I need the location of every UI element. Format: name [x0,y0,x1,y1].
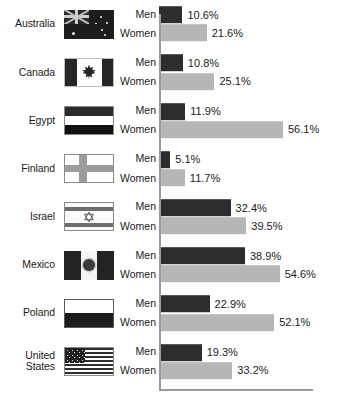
chart-row: CanadaMenWomen10.8%25.1% [0,48,342,96]
series-label-men: Men [120,246,156,266]
bar-line: 10.6% [159,7,342,24]
bar-men[interactable] [159,103,185,120]
israel-flag-icon [64,202,114,231]
flag-cell [58,10,120,39]
horizontal-baseline [159,389,313,391]
bar-value-label: 11.9% [190,105,220,117]
series-labels: MenWomen [120,101,159,140]
country-label-line: Israel [0,211,55,223]
plot-area: 11.9%56.1% [159,96,342,144]
canada-flag-icon [64,58,114,87]
series-label-women: Women [120,120,156,140]
series-label-women: Women [120,313,156,333]
country-label: Egypt [0,115,58,127]
series-label-women: Women [120,361,156,381]
series-label-women: Women [120,217,156,237]
bar-line: 10.8% [159,55,342,72]
series-label-men: Men [120,342,156,362]
bar-women[interactable] [159,217,246,234]
chart-row: FinlandMenWomen5.1%11.7% [0,145,342,193]
bar-value-label: 33.2% [237,365,268,377]
bar-women[interactable] [159,169,185,186]
series-labels: MenWomen [120,53,159,92]
bar-value-label: 11.7% [190,172,220,184]
bar-value-label: 39.5% [251,220,282,232]
bar-women[interactable] [159,121,283,138]
bar-line: 11.7% [159,169,342,186]
country-label: Israel [0,211,58,223]
bar-men[interactable] [159,7,182,24]
country-label-line: Australia [0,18,55,30]
series-labels: MenWomen [120,197,159,236]
series-labels: MenWomen [120,294,159,333]
series-label-women: Women [120,72,156,92]
bar-women[interactable] [159,266,280,283]
bar-men[interactable] [159,247,245,264]
plot-area: 38.9%54.6% [159,241,342,289]
plot-area: 19.3%33.2% [159,337,342,385]
country-label-line: Mexico [0,259,55,271]
bar-value-label: 32.4% [236,202,267,214]
bar-value-label: 5.1% [175,154,200,166]
bar-women[interactable] [159,73,214,90]
bar-line: 39.5% [159,217,342,234]
flag-cell [58,202,120,231]
bar-line: 38.9% [159,247,342,264]
country-label: Mexico [0,259,58,271]
series-labels: MenWomen [120,342,159,381]
chart-row: MexicoMenWomen38.9%54.6% [0,241,342,289]
series-label-women: Women [120,24,156,44]
flag-cell [58,106,120,135]
finland-flag-icon [64,154,114,183]
series-label-men: Men [120,197,156,217]
series-label-women: Women [120,265,156,285]
bar-line: 52.1% [159,314,342,331]
bar-men[interactable] [159,296,210,313]
egypt-flag-icon [64,106,114,135]
bar-line: 19.3% [159,344,342,361]
plot-area: 5.1%11.7% [159,145,342,193]
bar-women[interactable] [159,25,207,42]
country-label: Australia [0,18,58,30]
series-labels: MenWomen [120,149,159,188]
country-label-line: Egypt [0,115,55,127]
bar-line: 54.6% [159,266,342,283]
plot-area: 32.4%39.5% [159,193,342,241]
bar-women[interactable] [159,362,232,379]
bar-value-label: 52.1% [279,316,310,328]
flag-cell [58,251,120,280]
bar-value-label: 38.9% [250,250,281,262]
country-label-line: Poland [0,307,55,319]
bar-men[interactable] [159,344,202,361]
flag-cell [58,154,120,183]
series-label-men: Men [120,294,156,314]
country-label: UnitedStates [0,350,58,373]
flag-cell [58,347,120,376]
country-label-line: Canada [0,67,55,79]
series-labels: MenWomen [120,246,159,285]
bar-value-label: 54.6% [285,268,316,280]
vertical-axis-line [159,14,161,391]
series-label-men: Men [120,5,156,25]
bar-line: 5.1% [159,151,342,168]
australia-flag-icon [64,10,114,39]
poland-flag-icon [64,299,114,328]
bar-value-label: 21.6% [212,27,243,39]
us-flag-icon [64,347,114,376]
bar-men[interactable] [159,199,231,216]
bar-line: 33.2% [159,362,342,379]
bar-chart: AustraliaMenWomen10.6%21.6%CanadaMenWome… [0,0,342,413]
bar-line: 56.1% [159,121,342,138]
bar-men[interactable] [159,55,183,72]
plot-area: 10.6%21.6% [159,0,342,48]
bar-women[interactable] [159,314,274,331]
flag-cell [58,58,120,87]
country-label-line: Finland [0,163,55,175]
country-label: Poland [0,307,58,319]
plot-area: 22.9%52.1% [159,289,342,337]
bar-value-label: 22.9% [215,298,246,310]
country-label-line: States [0,361,55,373]
chart-rows: AustraliaMenWomen10.6%21.6%CanadaMenWome… [0,0,342,386]
bar-value-label: 25.1% [219,75,250,87]
series-labels: MenWomen [120,5,159,44]
